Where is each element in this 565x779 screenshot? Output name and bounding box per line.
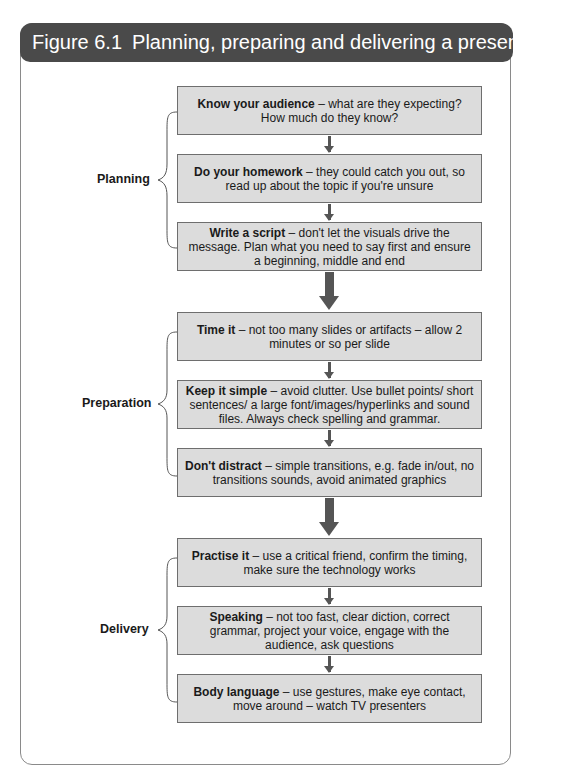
arrow-down-icon [328, 588, 331, 604]
figure-title: Planning, preparing and delivering a pre… [132, 31, 565, 53]
group-label-delivery: Delivery [100, 622, 149, 636]
step-do-your-homework: Do your homework – they could catch you … [177, 154, 482, 203]
arrow-down-icon [328, 362, 331, 378]
step-know-your-audience: Know your audience – what are they expec… [177, 86, 482, 135]
step-keep-it-simple: Keep it simple – avoid clutter. Use bull… [177, 380, 482, 429]
step-dont-distract: Don't distract – simple transitions, e.g… [177, 448, 482, 497]
figure-header: Figure 6.1Planning, preparing and delive… [20, 23, 513, 62]
arrow-down-icon [328, 136, 331, 152]
arrow-down-icon [328, 430, 331, 446]
big-arrow-down-icon [322, 272, 337, 310]
figure-number: Figure 6.1 [32, 31, 122, 53]
step-practise-it: Practise it – use a critical friend, con… [177, 538, 482, 587]
big-arrow-down-icon [322, 498, 337, 536]
step-write-a-script: Write a script – don't let the visuals d… [177, 222, 482, 271]
arrow-down-icon [328, 656, 331, 672]
step-time-it: Time it – not too many slides or artifac… [177, 312, 482, 361]
group-label-preparation: Preparation [82, 396, 151, 410]
step-body-language: Body language – use gestures, make eye c… [177, 674, 482, 723]
group-label-planning: Planning [97, 172, 150, 186]
step-speaking: Speaking – not too fast, clear diction, … [177, 606, 482, 655]
arrow-down-icon [328, 204, 331, 220]
